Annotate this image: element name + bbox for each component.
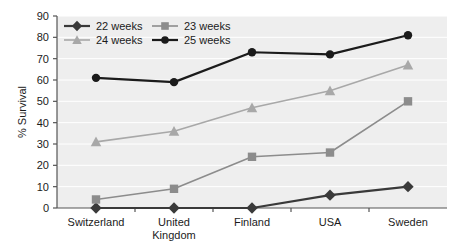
y-tick-label: 70 <box>37 53 49 65</box>
chart-canvas: 0102030405060708090 SwitzerlandUnitedKin… <box>0 0 459 249</box>
data-point-circle <box>326 50 334 58</box>
x-tick-label: Finland <box>234 216 270 228</box>
x-tick-label: United <box>158 216 190 228</box>
x-tick-label: Sweden <box>388 216 428 228</box>
y-tick-label: 40 <box>37 117 49 129</box>
data-point-square <box>161 22 169 30</box>
y-tick-label: 80 <box>37 31 49 43</box>
data-point-circle <box>404 31 412 39</box>
legend-label: 25 weeks <box>184 34 231 46</box>
legend-label: 24 weeks <box>96 34 143 46</box>
legend-label: 22 weeks <box>96 20 143 32</box>
x-tick-label: Kingdom <box>152 229 195 241</box>
y-tick-label: 10 <box>37 181 49 193</box>
y-axis <box>53 16 57 208</box>
data-point-circle <box>248 48 256 56</box>
x-tick-label: USA <box>319 216 342 228</box>
y-tick-label: 0 <box>43 202 49 214</box>
y-tick-labels-group: 0102030405060708090 <box>37 10 49 214</box>
data-point-square <box>170 185 178 193</box>
data-point-square <box>404 97 412 105</box>
y-tick-label: 50 <box>37 95 49 107</box>
x-tick-labels-group: SwitzerlandUnitedKingdomFinlandUSASweden <box>68 216 428 241</box>
survival-line-chart: 0102030405060708090 SwitzerlandUnitedKin… <box>0 0 459 249</box>
data-point-square <box>326 148 334 156</box>
legend-label: 23 weeks <box>184 20 231 32</box>
data-point-circle <box>92 74 100 82</box>
x-tick-label: Switzerland <box>68 216 125 228</box>
y-tick-label: 90 <box>37 10 49 22</box>
y-tick-label: 30 <box>37 138 49 150</box>
y-tick-label: 60 <box>37 74 49 86</box>
y-tick-label: 20 <box>37 159 49 171</box>
data-point-square <box>92 195 100 203</box>
y-axis-title: % Survival <box>16 86 28 138</box>
data-point-circle <box>170 78 178 86</box>
data-point-circle <box>161 36 169 44</box>
data-point-square <box>248 153 256 161</box>
